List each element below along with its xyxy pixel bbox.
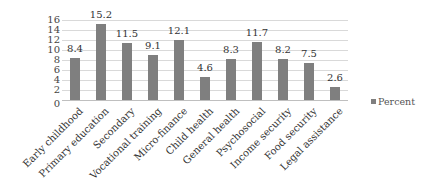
y-tick-label: 16 [46, 15, 60, 25]
y-tick-label: 0 [46, 99, 60, 109]
data-label: 12.1 [159, 26, 199, 36]
data-label: 15.2 [81, 10, 121, 20]
gridline [62, 20, 348, 21]
legend: Percent [371, 96, 415, 107]
bar [252, 42, 262, 101]
bar [278, 59, 288, 100]
bar [200, 77, 210, 100]
bar [226, 59, 236, 101]
bar [96, 24, 106, 100]
y-tick-label: 4 [46, 75, 60, 85]
y-tick-label: 8 [46, 55, 60, 65]
y-tick-label: 2 [46, 85, 60, 95]
y-tick-label: 6 [46, 65, 60, 75]
data-label: 4.6 [185, 63, 225, 73]
bar [304, 63, 314, 101]
data-label: 8.4 [55, 44, 95, 54]
bar [148, 55, 158, 101]
data-label: 11.5 [107, 29, 147, 39]
data-label: 11.7 [237, 28, 277, 38]
x-axis [62, 100, 348, 101]
data-label: 9.1 [133, 41, 173, 51]
data-label: 8.3 [211, 45, 251, 55]
bar [174, 40, 184, 101]
data-label: 2.6 [315, 73, 355, 83]
data-label: 7.5 [289, 49, 329, 59]
legend-label: Percent [378, 96, 415, 107]
y-tick-label: 14 [46, 25, 60, 35]
bar-chart: 02468101214168.4Early childhood15.2Prima… [0, 0, 427, 183]
legend-swatch-icon [371, 99, 376, 104]
bar [122, 43, 132, 101]
bar [330, 87, 340, 100]
bar [70, 58, 80, 100]
